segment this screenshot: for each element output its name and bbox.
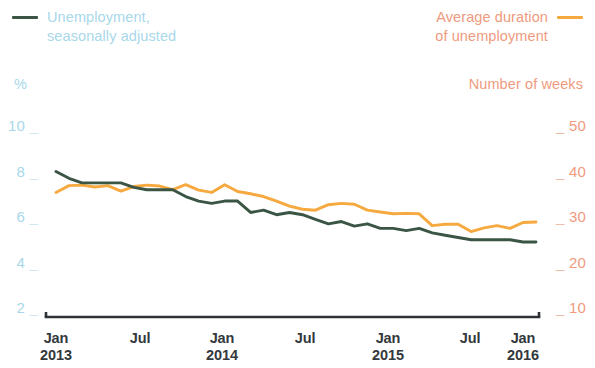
x-tick-0: Jan 2013 [26, 330, 86, 364]
line-average-duration [56, 185, 536, 232]
x-tick-4: Jan 2015 [358, 330, 418, 364]
chart-figure: Unemployment, seasonally adjusted Averag… [0, 0, 595, 368]
x-tick-6: Jan 2016 [493, 330, 553, 364]
x-tick-5: Jul [440, 330, 500, 347]
x-tick-2: Jan 2014 [192, 330, 252, 364]
plot-area [0, 0, 595, 368]
x-tick-1: Jul [110, 330, 170, 347]
x-tick-3: Jul [275, 330, 335, 347]
